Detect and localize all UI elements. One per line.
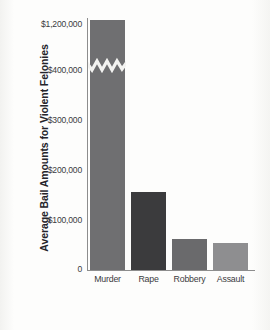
y-tick-label-200000: $200,000	[0, 165, 82, 175]
bar-chart-figure: Average Bail Amounts for Violent Felonie…	[0, 0, 270, 330]
y-tick-label-400000: $400,000	[0, 65, 82, 75]
y-tick-label-100000: $100,000	[0, 215, 82, 225]
x-tick-label-rape: Rape	[131, 274, 166, 284]
bar-assault	[213, 243, 248, 270]
bar-robbery	[172, 239, 207, 270]
bar-rape	[131, 192, 166, 270]
x-tick-label-robbery: Robbery	[170, 274, 209, 284]
plot-area: Average Bail Amounts for Violent Felonie…	[0, 0, 270, 330]
y-tick-label-0: 0	[0, 264, 82, 274]
y-axis-line	[87, 18, 88, 271]
x-axis-line	[87, 270, 255, 271]
y-tick-label-1200000: $1,200,000	[0, 19, 82, 29]
y-tick-label-300000: $300,000	[0, 115, 82, 125]
bar-murder	[90, 20, 125, 270]
x-tick-label-murder: Murder	[90, 274, 125, 284]
x-tick-label-assault: Assault	[211, 274, 250, 284]
